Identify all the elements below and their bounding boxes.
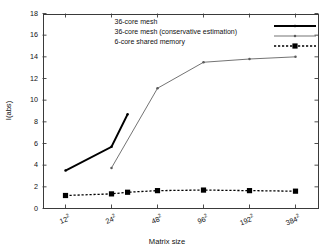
legend-label: 36-core mesh bbox=[115, 17, 158, 27]
series-6-core-shared-memory bbox=[63, 187, 298, 198]
legend-line-sample bbox=[273, 27, 317, 37]
legend-item: 36-core mesh bbox=[115, 17, 317, 27]
figure-container: I(abs) 024681012141618 12224248296219223… bbox=[0, 0, 334, 251]
series-36-core-mesh bbox=[64, 113, 129, 172]
legend-label: 6-core shared memory bbox=[115, 37, 185, 47]
legend-item: 36-core mesh (conservative estimation) bbox=[115, 27, 317, 37]
legend: 36-core mesh36-core mesh (conservative e… bbox=[115, 17, 317, 47]
legend-item: 6-core shared memory bbox=[115, 37, 317, 47]
legend-label: 36-core mesh (conservative estimation) bbox=[115, 27, 238, 37]
series-36-core-mesh-conservative-estimation bbox=[110, 56, 297, 170]
legend-line-sample bbox=[273, 37, 317, 47]
legend-line-sample bbox=[273, 17, 317, 27]
